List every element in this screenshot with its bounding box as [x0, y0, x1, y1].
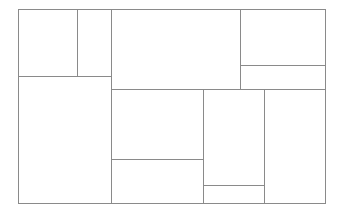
cell-3: [18, 76, 112, 204]
cell-8: [111, 159, 204, 204]
cell-1: [18, 9, 78, 77]
cell-4: [111, 9, 241, 90]
cell-2: [77, 9, 112, 77]
cell-6: [240, 65, 326, 90]
cell-7: [111, 89, 204, 160]
cell-9: [203, 89, 265, 186]
cell-11: [264, 89, 326, 204]
cell-10: [203, 185, 265, 204]
cell-5: [240, 9, 326, 66]
